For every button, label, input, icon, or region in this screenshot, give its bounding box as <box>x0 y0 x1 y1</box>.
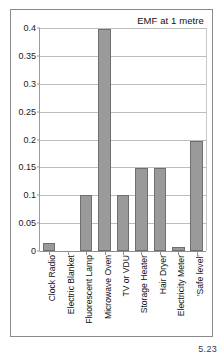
figure-frame: EMF at 1 metre 00.050.10.150.20.250.30.3… <box>10 9 213 337</box>
x-category-label: Storage Heater <box>140 255 149 313</box>
bar-slot <box>58 28 76 251</box>
page-folio: 5.23 <box>198 344 217 354</box>
bar-slot <box>188 28 206 251</box>
x-category-label: Microwave Oven <box>104 255 113 319</box>
bar-slot <box>132 28 150 251</box>
y-tick-label: 0.1 <box>23 191 36 200</box>
bar-series <box>40 28 206 251</box>
y-tick-label: 0.4 <box>23 24 36 33</box>
chart-title: EMF at 1 metre <box>137 15 204 26</box>
y-tick-label: 0.3 <box>23 79 36 88</box>
x-category-label: 'Safe level' <box>196 255 205 296</box>
bar-slot <box>95 28 113 251</box>
bar <box>154 168 167 251</box>
y-tick-label: 0.25 <box>18 107 36 116</box>
x-label-slot: Fluorescent Lamp <box>76 255 94 333</box>
x-label-slot: Electricity Meter <box>168 255 186 333</box>
x-label-slot: TV or VDU <box>113 255 131 333</box>
x-category-label: TV or VDU <box>122 255 131 297</box>
bar <box>190 141 203 251</box>
bar-slot <box>151 28 169 251</box>
x-category-label: Fluorescent Lamp <box>85 255 94 324</box>
bar-slot <box>77 28 95 251</box>
x-axis-category-labels: Clock RadioElectric BlanketFluorescent L… <box>39 255 205 333</box>
bar <box>98 29 111 251</box>
bar-slot <box>40 28 58 251</box>
bar-slot <box>169 28 187 251</box>
y-tick-label: 0.35 <box>18 51 36 60</box>
y-tick-label: 0 <box>31 247 36 256</box>
x-category-label: Electric Blanket <box>67 255 76 314</box>
y-tick-label: 0.05 <box>18 219 36 228</box>
x-category-label: Electricity Meter <box>177 255 186 316</box>
x-label-slot: Electric Blanket <box>57 255 75 333</box>
x-label-slot: 'Safe level' <box>187 255 205 333</box>
plot-area: 00.050.10.150.20.250.30.350.4 <box>39 28 207 251</box>
bar <box>135 168 148 251</box>
bar-slot <box>114 28 132 251</box>
bar <box>117 195 130 251</box>
x-label-slot: Storage Heater <box>131 255 149 333</box>
x-category-label: Hair Dryer <box>159 255 168 294</box>
x-label-slot: Microwave Oven <box>94 255 112 333</box>
bar <box>43 243 56 251</box>
x-category-label: Clock Radio <box>48 255 57 301</box>
bar <box>80 195 93 251</box>
y-tick-label: 0.15 <box>18 163 36 172</box>
x-label-slot: Hair Dryer <box>150 255 168 333</box>
x-label-slot: Clock Radio <box>39 255 57 333</box>
y-tick-label: 0.2 <box>23 135 36 144</box>
